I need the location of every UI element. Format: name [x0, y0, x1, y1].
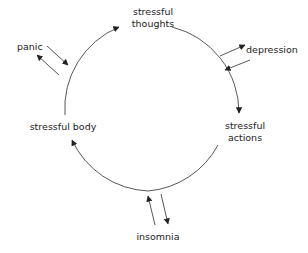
arrow-body-to-thoughts	[65, 27, 119, 115]
arrow-to-depression	[220, 45, 245, 56]
node-insomnia: insomnia	[128, 231, 188, 243]
node-label-line1: stressful	[210, 120, 280, 132]
arrow-to-panic	[37, 55, 59, 75]
arrow-thoughts-to-actions	[172, 27, 239, 113]
arrow-from-depression	[225, 60, 250, 70]
arrow-from-panic	[47, 46, 68, 65]
arrow-from-insomnia	[148, 196, 155, 225]
arc-actions-to-bottom	[148, 145, 218, 191]
arrow-bottom-to-body	[72, 140, 148, 191]
node-panic: panic	[17, 41, 43, 53]
node-stressful-actions: stressful actions	[210, 120, 280, 144]
node-label-line2: thoughts	[118, 18, 188, 30]
node-stressful-thoughts: stressful thoughts	[118, 6, 188, 30]
arrow-to-insomnia	[161, 194, 168, 224]
node-depression: depression	[246, 44, 298, 56]
node-label-line2: actions	[210, 132, 280, 144]
node-label-line1: stressful	[118, 6, 188, 18]
node-stressful-body: stressful body	[22, 121, 104, 133]
